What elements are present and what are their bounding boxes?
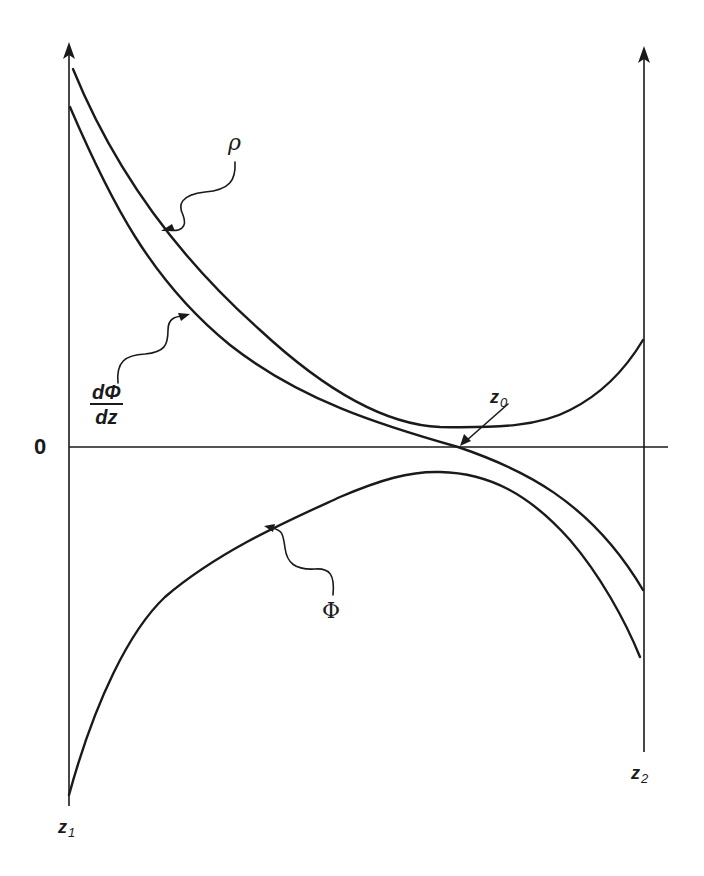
- phi-curve: [69, 472, 640, 795]
- z1-label-sub: 1: [68, 825, 75, 840]
- dphi-dz-label: dΦ dz: [90, 382, 123, 427]
- dphi-dz-leader: [118, 316, 185, 383]
- z1-label-base: z: [58, 817, 67, 837]
- dphi-dz-numerator: dΦ: [90, 382, 123, 405]
- z2-label-sub: 2: [641, 771, 648, 786]
- z0-label: z0: [490, 388, 507, 409]
- dphi-dz-leader-arrow-icon: [178, 313, 190, 321]
- rho-curve: [73, 69, 643, 427]
- phi-leader: [272, 528, 333, 595]
- potential-density-diagram: [0, 0, 704, 876]
- z1-label: z1: [58, 818, 75, 839]
- dphi-dz-curve: [70, 107, 643, 590]
- zero-label: 0: [34, 436, 46, 458]
- rho-label: ρ: [228, 132, 241, 154]
- z2-label: z2: [631, 764, 648, 785]
- dphi-dz-denominator: dz: [95, 405, 117, 427]
- z0-leader-arrow-icon: [460, 434, 471, 446]
- z2-label-base: z: [631, 763, 640, 783]
- phi-label: Φ: [322, 600, 340, 622]
- z0-label-base: z: [490, 387, 499, 407]
- rho-leader: [168, 162, 235, 230]
- z0-label-sub: 0: [500, 395, 507, 410]
